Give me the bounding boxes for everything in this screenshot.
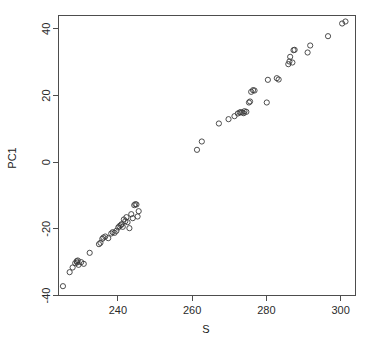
y-axis-title: PC1: [6, 147, 18, 168]
y-tick-label: -40: [40, 288, 52, 304]
figure-background: [0, 0, 372, 342]
x-tick-label: 260: [183, 304, 201, 316]
x-tick-label: 240: [109, 304, 127, 316]
y-tick-label: 0: [40, 159, 52, 165]
x-tick-label: 280: [257, 304, 275, 316]
y-tick-label: -20: [40, 221, 52, 237]
y-tick-label: 40: [40, 23, 52, 35]
y-tick-label: 20: [40, 89, 52, 101]
x-axis-title: S: [202, 323, 209, 335]
x-tick-label: 300: [331, 304, 349, 316]
scatter-plot-figure: 240260280300 -40-2002040 S PC1: [0, 0, 372, 342]
chart-canvas: 240260280300 -40-2002040 S PC1: [0, 0, 372, 342]
